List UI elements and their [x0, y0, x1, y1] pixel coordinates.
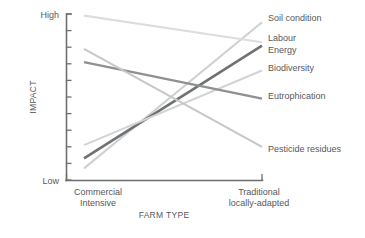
y-axis-title: IMPACT: [28, 80, 38, 113]
series-line-descending-light: [84, 16, 262, 43]
series-label-eutrophication: Eutrophication: [268, 91, 326, 101]
x-category-label-traditional-line1: Traditional: [238, 187, 280, 197]
series-label-labour: Labour: [268, 33, 296, 43]
series-label-pesticide-residues: Pesticide residues: [268, 144, 342, 154]
series-label-soil-condition: Soil condition: [268, 13, 322, 23]
y-axis-low-label: Low: [42, 176, 59, 186]
series-line-eutrophication: [84, 62, 262, 99]
series-line-soil-condition: [84, 22, 262, 168]
series-lines: [84, 16, 262, 169]
line-chart-svg: High Low IMPACT FARM TYPE Commercial Int…: [0, 0, 365, 238]
x-category-label-commercial-line1: Commercial: [74, 187, 122, 197]
x-category-label-traditional-line2: locally-adapted: [229, 198, 290, 208]
chart-container: High Low IMPACT FARM TYPE Commercial Int…: [0, 0, 365, 238]
series-line-biodiversity: [84, 70, 262, 145]
series-label-energy: Energy: [268, 45, 297, 55]
x-category-label-commercial-line2: Intensive: [80, 198, 116, 208]
series-label-biodiversity: Biodiversity: [268, 63, 315, 73]
x-axis-title: FARM TYPE: [139, 210, 190, 220]
y-axis-high-label: High: [40, 10, 59, 20]
